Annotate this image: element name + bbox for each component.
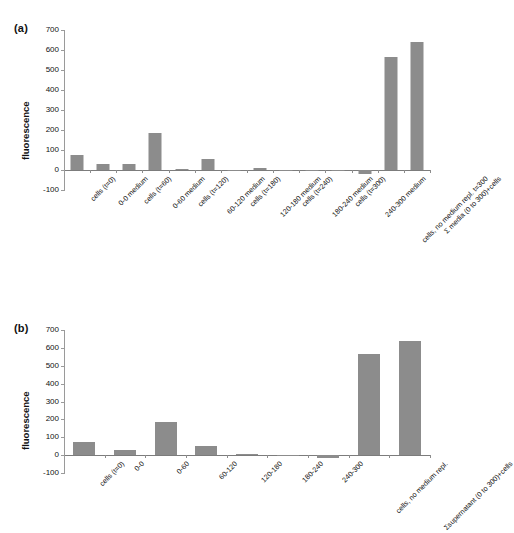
panel-b-bars <box>64 330 430 473</box>
x-tick <box>195 170 196 173</box>
panel-b-letter: (b) <box>14 322 29 334</box>
x-tick <box>430 455 431 458</box>
x-tick <box>352 170 353 173</box>
panel-b: (b) fluorescence -1000100200300400500600… <box>0 300 443 533</box>
bar-slot <box>273 30 299 190</box>
x-tick <box>299 170 300 173</box>
x-tick <box>227 455 228 458</box>
bar <box>254 168 267 170</box>
y-tick <box>61 384 65 385</box>
bar-slot <box>105 330 146 473</box>
x-tick <box>273 170 274 173</box>
y-tick <box>61 348 65 349</box>
y-tick-label: 700 <box>46 326 59 334</box>
bar <box>358 354 380 455</box>
bar-slot <box>247 30 273 190</box>
bar-slot <box>378 30 404 190</box>
y-tick-label: 100 <box>46 433 59 441</box>
bar-slot <box>64 30 90 190</box>
bar-slot <box>325 30 351 190</box>
bar-slot <box>195 30 221 190</box>
x-tick <box>349 455 350 458</box>
panel-a: (a) fluorescence -1000100200300400500600… <box>0 0 443 300</box>
y-tick-label: 400 <box>46 86 59 94</box>
bar <box>306 170 319 171</box>
y-tick-label: 0 <box>55 451 59 459</box>
bar <box>201 159 214 170</box>
y-tick-label: 400 <box>46 380 59 388</box>
x-tick <box>142 170 143 173</box>
x-axis-label: cells, no medium repl. t=300 <box>420 175 489 244</box>
bar-slot <box>389 330 430 473</box>
y-tick <box>61 190 65 191</box>
y-tick-label: 600 <box>46 46 59 54</box>
bar <box>410 42 423 170</box>
x-tick <box>105 455 106 458</box>
x-tick <box>221 170 222 173</box>
panel-a-letter: (a) <box>14 22 28 34</box>
bar-slot <box>299 30 325 190</box>
bar <box>149 133 162 170</box>
y-tick <box>61 366 65 367</box>
panel-b-plot-area: -1000100200300400500600700cells (t=0)0-0… <box>64 330 430 473</box>
y-tick-label: 300 <box>46 106 59 114</box>
bar-slot <box>169 30 195 190</box>
bar <box>71 155 84 170</box>
bar <box>155 422 177 455</box>
bar <box>399 341 421 455</box>
y-tick-label: 300 <box>46 398 59 406</box>
bar <box>317 455 339 458</box>
x-tick <box>186 455 187 458</box>
y-tick <box>61 90 65 91</box>
y-tick <box>61 437 65 438</box>
y-tick <box>61 150 65 151</box>
y-tick-label: 500 <box>46 66 59 74</box>
bar <box>384 57 397 170</box>
x-tick <box>116 170 117 173</box>
bar-slot <box>221 30 247 190</box>
y-tick-label: 200 <box>46 415 59 423</box>
bar-slot <box>267 330 308 473</box>
bar-slot <box>142 30 168 190</box>
y-tick <box>61 50 65 51</box>
bar <box>280 170 293 171</box>
bar-slot <box>227 330 268 473</box>
bar-slot <box>308 330 349 473</box>
bar <box>236 454 258 455</box>
bar <box>123 164 136 170</box>
panel-a-bars <box>64 30 430 190</box>
bar-slot <box>90 30 116 190</box>
bar-slot <box>145 330 186 473</box>
bar <box>277 455 299 456</box>
bar-slot <box>352 30 378 190</box>
bar-slot <box>186 330 227 473</box>
y-tick <box>61 455 65 456</box>
x-tick <box>267 455 268 458</box>
x-tick <box>247 170 248 173</box>
panel-a-plot-area: -1000100200300400500600700cells (t=0)0-0… <box>64 30 430 190</box>
panel-a-y-axis-label: fluorescence <box>20 101 31 160</box>
bar <box>227 170 240 171</box>
y-tick-label: 200 <box>46 126 59 134</box>
bar <box>73 442 95 456</box>
bar <box>195 446 217 455</box>
x-axis-label: Σsupernatant (0 to 300)+cells <box>442 460 513 531</box>
x-tick <box>169 170 170 173</box>
y-tick <box>61 402 65 403</box>
x-tick <box>430 170 431 173</box>
x-tick <box>389 455 390 458</box>
bar <box>332 170 345 171</box>
x-tick <box>325 170 326 173</box>
y-tick <box>61 473 65 474</box>
y-tick <box>61 130 65 131</box>
y-tick-label: -100 <box>43 186 59 194</box>
y-tick-label: 0 <box>55 166 59 174</box>
y-tick-label: 500 <box>46 362 59 370</box>
y-tick <box>61 70 65 71</box>
bar <box>175 169 188 170</box>
bar-slot <box>116 30 142 190</box>
x-tick <box>404 170 405 173</box>
bar <box>114 450 136 455</box>
x-tick <box>90 170 91 173</box>
